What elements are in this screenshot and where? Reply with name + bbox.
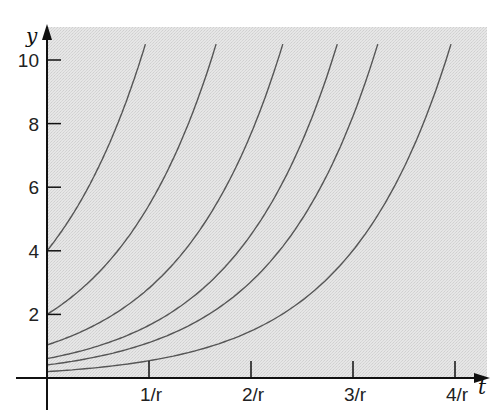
shaded-plot-area [47, 27, 487, 378]
y-tick-label: 10 [18, 50, 39, 71]
x-tick-label: 3/r [344, 384, 367, 405]
x-tick-label: 2/r [242, 384, 265, 405]
x-axis-label: t [478, 375, 487, 399]
y-tick-label: 8 [28, 114, 39, 135]
y-tick-label: 4 [28, 241, 39, 262]
y-axis-label: y [25, 24, 38, 48]
chart: 246810 1/r2/r3/r4/r y t [0, 0, 501, 420]
x-tick-label: 4/r [446, 384, 469, 405]
x-tick-label: 1/r [140, 384, 163, 405]
y-tick-label: 2 [28, 304, 39, 325]
y-tick-label: 6 [28, 177, 39, 198]
